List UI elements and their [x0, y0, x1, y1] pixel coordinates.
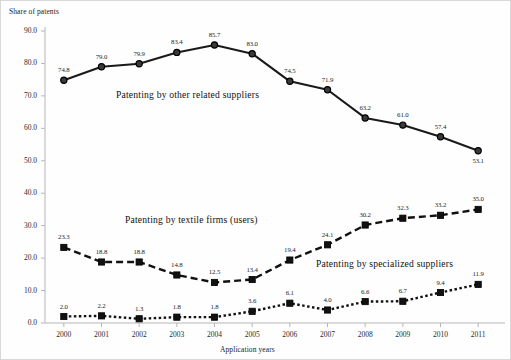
y-tick-label: 10.0: [11, 286, 37, 295]
data-point-marker: [174, 314, 180, 320]
y-tick-label: 60.0: [11, 123, 37, 132]
data-point-label: 63.2: [352, 104, 378, 111]
data-point-marker: [400, 298, 406, 304]
data-point-marker: [98, 64, 104, 70]
data-point-marker: [287, 257, 293, 263]
data-point-label: 18.8: [89, 248, 115, 255]
data-point-marker: [287, 78, 293, 84]
data-point-label: 3.6: [239, 297, 265, 304]
data-point-label: 1.8: [202, 303, 228, 310]
data-point-marker: [249, 276, 255, 282]
series-annotation: Patenting by other related suppliers: [116, 89, 259, 100]
series-annotation: Patenting by specialized suppliers: [316, 258, 453, 269]
data-point-marker: [136, 61, 142, 67]
data-point-marker: [136, 259, 142, 265]
data-point-marker: [98, 259, 104, 265]
data-point-marker: [136, 316, 142, 322]
y-tick-label: 70.0: [11, 91, 37, 100]
data-point-label: 32.3: [390, 204, 416, 211]
data-point-label: 18.8: [126, 248, 152, 255]
plot-area: [1, 1, 511, 360]
data-point-label: 2.2: [89, 302, 115, 309]
data-point-label: 83.4: [164, 38, 190, 45]
y-tick-label: 30.0: [11, 221, 37, 230]
data-point-label: 30.2: [352, 211, 378, 218]
data-point-label: 6.1: [277, 289, 303, 296]
data-point-label: 4.0: [315, 296, 341, 303]
data-point-marker: [362, 115, 368, 121]
data-point-label: 83.0: [239, 40, 265, 47]
y-tick-label: 90.0: [11, 26, 37, 35]
data-point-label: 2.0: [51, 303, 77, 310]
data-point-marker: [324, 242, 330, 248]
data-point-label: 53.1: [465, 157, 491, 164]
x-tick-label: 2008: [348, 330, 382, 339]
data-point-marker: [475, 148, 481, 154]
data-point-label: 79.0: [89, 53, 115, 60]
y-tick-label: 20.0: [11, 253, 37, 262]
data-point-marker: [400, 122, 406, 128]
series-line-2: [64, 284, 478, 318]
y-tick-label: 50.0: [11, 156, 37, 165]
data-point-label: 1.3: [126, 305, 152, 312]
data-point-label: 1.8: [164, 303, 190, 310]
data-point-marker: [324, 307, 330, 313]
data-point-label: 14.8: [164, 261, 190, 268]
x-tick-label: 2002: [122, 330, 156, 339]
y-tick-label: 0.0: [11, 318, 37, 327]
data-point-marker: [98, 313, 104, 319]
data-point-label: 12.5: [202, 268, 228, 275]
data-point-label: 19.4: [277, 246, 303, 253]
data-point-marker: [475, 281, 481, 287]
data-point-label: 74.5: [277, 67, 303, 74]
data-point-marker: [400, 215, 406, 221]
data-point-marker: [61, 313, 67, 319]
data-point-marker: [61, 77, 67, 83]
data-point-marker: [249, 308, 255, 314]
data-point-marker: [362, 298, 368, 304]
x-tick-label: 2004: [198, 330, 232, 339]
data-point-marker: [362, 222, 368, 228]
data-point-label: 9.4: [428, 279, 454, 286]
x-tick-label: 2009: [386, 330, 420, 339]
x-tick-label: 2007: [311, 330, 345, 339]
x-tick-label: 2006: [273, 330, 307, 339]
data-point-label: 24.1: [315, 231, 341, 238]
data-point-marker: [287, 300, 293, 306]
x-tick-label: 2010: [424, 330, 458, 339]
y-tick-label: 80.0: [11, 58, 37, 67]
data-point-label: 57.4: [428, 123, 454, 130]
data-point-marker: [61, 244, 67, 250]
y-tick-label: 40.0: [11, 188, 37, 197]
data-point-label: 79.9: [126, 50, 152, 57]
data-point-label: 6.7: [390, 287, 416, 294]
data-point-label: 74.8: [51, 66, 77, 73]
x-tick-label: 2003: [160, 330, 194, 339]
data-point-label: 23.3: [51, 233, 77, 240]
data-point-marker: [211, 42, 217, 48]
data-point-marker: [437, 289, 443, 295]
data-point-marker: [174, 272, 180, 278]
data-point-marker: [475, 206, 481, 212]
data-point-label: 61.0: [390, 111, 416, 118]
data-point-label: 11.9: [465, 270, 491, 277]
data-point-marker: [437, 134, 443, 140]
x-tick-label: 2011: [461, 330, 495, 339]
data-point-label: 6.6: [352, 288, 378, 295]
x-tick-label: 2005: [235, 330, 269, 339]
data-point-label: 71.9: [315, 76, 341, 83]
x-tick-label: 2001: [85, 330, 119, 339]
data-point-marker: [174, 49, 180, 55]
chart-container: Share of patents Application years 0.010…: [0, 0, 511, 360]
data-point-marker: [211, 314, 217, 320]
data-point-marker: [211, 279, 217, 285]
data-point-label: 13.4: [239, 266, 265, 273]
data-point-marker: [249, 51, 255, 57]
series-annotation: Patenting by textile firms (users): [125, 214, 258, 225]
data-point-marker: [324, 87, 330, 93]
x-tick-label: 2000: [47, 330, 81, 339]
data-point-label: 85.7: [202, 31, 228, 38]
data-point-label: 35.0: [465, 195, 491, 202]
data-point-label: 33.2: [428, 201, 454, 208]
data-point-marker: [437, 212, 443, 218]
